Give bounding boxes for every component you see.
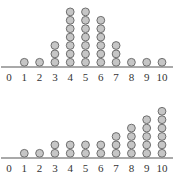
data-dot xyxy=(66,50,74,58)
data-dot xyxy=(51,141,59,149)
data-dot xyxy=(66,16,74,24)
dot-plot-top-canvas: 012345678910 xyxy=(0,0,175,91)
data-dot xyxy=(158,149,166,157)
data-dot xyxy=(66,58,74,66)
data-dot xyxy=(158,107,166,115)
data-dot xyxy=(97,42,105,50)
data-dot xyxy=(20,149,28,157)
x-tick-label: 2 xyxy=(37,162,43,174)
x-tick-label: 4 xyxy=(67,71,73,83)
data-dot xyxy=(66,33,74,41)
data-dot xyxy=(127,149,135,157)
data-dot xyxy=(127,58,135,66)
data-dot xyxy=(82,25,90,33)
data-dot xyxy=(20,58,28,66)
data-dot xyxy=(112,133,120,141)
data-dot xyxy=(127,124,135,132)
x-tick-label: 6 xyxy=(98,162,104,174)
data-dot xyxy=(143,149,151,157)
data-dot xyxy=(82,16,90,24)
data-dot xyxy=(97,141,105,149)
data-dot xyxy=(82,50,90,58)
data-dot xyxy=(158,116,166,124)
data-dot xyxy=(143,116,151,124)
dot-plot-bottom-canvas: 012345678910 xyxy=(0,91,175,182)
x-tick-label: 6 xyxy=(98,71,104,83)
data-dot xyxy=(66,149,74,157)
data-dot xyxy=(51,50,59,58)
data-dot xyxy=(112,58,120,66)
data-dot xyxy=(51,149,59,157)
data-dot xyxy=(97,16,105,24)
data-dot xyxy=(97,149,105,157)
data-dot xyxy=(158,141,166,149)
data-dot xyxy=(112,141,120,149)
x-tick-label: 5 xyxy=(83,71,89,83)
x-tick-label: 9 xyxy=(144,71,150,83)
data-dot xyxy=(66,25,74,33)
x-tick-label: 4 xyxy=(67,162,73,174)
x-tick-label: 9 xyxy=(144,162,150,174)
data-dot xyxy=(112,42,120,50)
data-dot xyxy=(97,33,105,41)
data-dot xyxy=(127,133,135,141)
x-tick-label: 10 xyxy=(157,162,169,174)
data-dot xyxy=(51,42,59,50)
data-dot xyxy=(97,25,105,33)
x-tick-label: 3 xyxy=(52,162,58,174)
data-dot xyxy=(82,149,90,157)
x-tick-label: 1 xyxy=(22,162,28,174)
data-dot xyxy=(97,50,105,58)
data-dot xyxy=(158,133,166,141)
x-tick-label: 7 xyxy=(113,71,119,83)
x-tick-label: 1 xyxy=(22,71,28,83)
x-tick-label: 0 xyxy=(6,162,12,174)
data-dot xyxy=(66,141,74,149)
data-dot xyxy=(82,8,90,16)
x-tick-label: 5 xyxy=(83,162,89,174)
dot-plot-top: 012345678910 xyxy=(0,0,175,91)
data-dot xyxy=(82,58,90,66)
data-dot xyxy=(97,58,105,66)
x-tick-label: 10 xyxy=(157,71,169,83)
data-dot xyxy=(143,133,151,141)
data-dot xyxy=(158,124,166,132)
data-dot xyxy=(143,141,151,149)
x-tick-label: 8 xyxy=(129,162,135,174)
data-dot xyxy=(112,149,120,157)
x-tick-label: 2 xyxy=(37,71,43,83)
data-dot xyxy=(127,141,135,149)
data-dot xyxy=(82,141,90,149)
x-tick-label: 7 xyxy=(113,162,119,174)
data-dot xyxy=(112,50,120,58)
data-dot xyxy=(158,58,166,66)
data-dot xyxy=(66,42,74,50)
data-dot xyxy=(36,149,44,157)
x-tick-label: 0 xyxy=(6,71,12,83)
x-tick-label: 8 xyxy=(129,71,135,83)
data-dot xyxy=(66,8,74,16)
data-dot xyxy=(36,58,44,66)
data-dot xyxy=(51,58,59,66)
dot-plot-bottom: 012345678910 xyxy=(0,91,175,182)
data-dot xyxy=(143,124,151,132)
data-dot xyxy=(82,33,90,41)
data-dot xyxy=(143,58,151,66)
data-dot xyxy=(82,42,90,50)
x-tick-label: 3 xyxy=(52,71,58,83)
